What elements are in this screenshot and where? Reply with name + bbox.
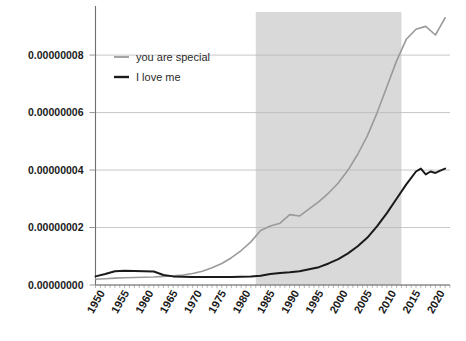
legend-label-1: you are special	[136, 51, 210, 63]
x-tick-label: 1950	[84, 288, 107, 315]
x-tick-label: 1960	[133, 288, 156, 315]
x-tick-label: 1975	[206, 288, 229, 315]
x-tick-label: 2005	[351, 288, 374, 315]
x-tick-label: 2000	[327, 288, 350, 315]
y-axis-labels: 0.000000000.000000020.000000040.00000006…	[28, 49, 84, 291]
y-tick-label: 0.00000006	[28, 106, 84, 118]
legend-label-2: I love me	[136, 71, 181, 83]
chart-container: 0.000000000.000000020.000000040.00000006…	[0, 0, 466, 341]
x-axis-labels: 1950195519601965197019751980198519901995…	[84, 288, 447, 315]
x-tick-label: 1980	[230, 288, 253, 315]
shaded-region	[256, 12, 402, 285]
x-tick-label: 1965	[157, 288, 180, 315]
y-tick-label: 0.00000000	[28, 279, 84, 291]
y-tick-label: 0.00000002	[28, 221, 84, 233]
chart-legend: you are specialI love me	[114, 51, 210, 83]
x-tick-label: 1990	[279, 288, 302, 315]
x-tick-label: 1970	[181, 288, 204, 315]
y-tick-label: 0.00000008	[28, 49, 84, 61]
x-tick-label: 2020	[424, 288, 447, 315]
y-tick-label: 0.00000004	[28, 164, 84, 176]
x-tick-label: 1985	[254, 288, 277, 315]
x-tick-label: 1995	[303, 288, 326, 315]
y-axis-ticks	[90, 55, 96, 285]
line-chart: 0.000000000.000000020.000000040.00000006…	[0, 0, 466, 341]
x-tick-label: 2010	[376, 288, 399, 315]
x-tick-label: 1955	[109, 288, 132, 315]
x-tick-label: 2015	[400, 288, 423, 315]
shaded-region-layer	[256, 12, 402, 285]
